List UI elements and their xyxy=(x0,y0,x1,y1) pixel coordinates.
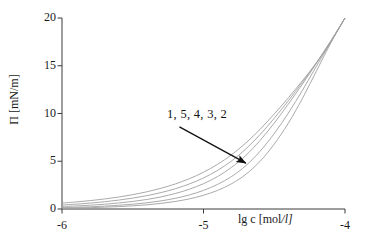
y-axis-title: Π [mN/m] xyxy=(7,60,22,140)
annotation-arrow xyxy=(179,127,246,163)
y-tick-label: 10 xyxy=(20,106,56,121)
y-tick-label: 0 xyxy=(20,201,56,216)
y-tick-label: 20 xyxy=(20,10,56,25)
x-axis-title-pre: lg c [mol xyxy=(238,212,281,226)
x-axis-ticks xyxy=(62,209,345,214)
curve-order-annotation: 1, 5, 4, 3, 2 xyxy=(167,107,227,122)
y-tick-label: 15 xyxy=(20,58,56,73)
x-tick-label: -4 xyxy=(325,218,365,233)
y-axis-ticks xyxy=(58,18,63,209)
y-tick-label: 5 xyxy=(20,153,56,168)
x-axis-title-post: l] xyxy=(285,212,293,226)
x-tick-label: -5 xyxy=(184,218,224,233)
x-axis-title: lg c [mol/l] xyxy=(238,212,293,227)
chart-figure: 05101520-6-5-4 Π [mN/m] lg c [mol/l] 1, … xyxy=(0,0,370,247)
x-tick-label: -6 xyxy=(42,218,82,233)
